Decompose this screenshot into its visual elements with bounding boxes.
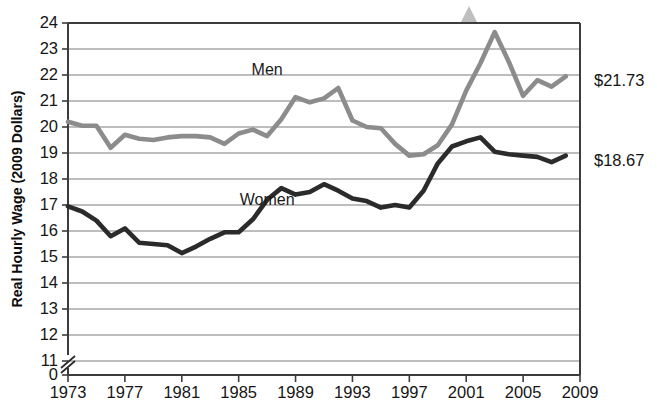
x-tick-label: 2009 <box>562 383 599 401</box>
y-tick-group: 24232221201918171615141312110 <box>40 13 68 383</box>
y-tick-label: 19 <box>40 143 58 161</box>
x-tick-label: 1977 <box>107 383 144 401</box>
y-tick-label: 22 <box>40 65 58 83</box>
y-tick-label: 18 <box>40 169 58 187</box>
series-group <box>68 32 566 253</box>
y-tick-label: 21 <box>40 91 58 109</box>
y-tick-label: 13 <box>40 299 58 317</box>
y-tick-label: 12 <box>40 325 58 343</box>
plot-frame <box>61 23 580 375</box>
y-axis-title: Real Hourly Wage (2009 Dollars) <box>9 90 25 307</box>
y-tick-label: 20 <box>40 117 58 135</box>
x-tick-label: 1989 <box>277 383 314 401</box>
x-tick-label: 1985 <box>220 383 257 401</box>
x-tick-label: 1993 <box>334 383 371 401</box>
series-label-women: Women <box>240 191 295 208</box>
y-tick-label: 24 <box>40 13 58 31</box>
line-chart: 24232221201918171615141312110 1973197719… <box>0 0 657 414</box>
series-line-men <box>68 32 566 156</box>
x-tick-label: 1973 <box>50 383 87 401</box>
x-tick-group: 1973197719811985198919931997200120052009 <box>50 375 599 401</box>
end-value-label-men: $21.73 <box>594 71 644 89</box>
top-edge-artifact <box>461 6 477 22</box>
series-line-women <box>68 137 566 253</box>
y-tick-label: 0 <box>49 365 58 383</box>
series-label-men: Men <box>252 61 283 78</box>
y-tick-label: 17 <box>40 195 58 213</box>
x-tick-label: 2005 <box>505 383 542 401</box>
x-tick-label: 1981 <box>163 383 200 401</box>
x-tick-label: 1997 <box>391 383 428 401</box>
y-tick-label: 14 <box>40 273 58 291</box>
x-tick-label: 2001 <box>448 383 485 401</box>
y-tick-label: 16 <box>40 221 58 239</box>
end-label-group: $21.73$18.67 <box>594 71 644 169</box>
end-value-label-women: $18.67 <box>594 151 644 169</box>
chart-container: 24232221201918171615141312110 1973197719… <box>0 0 657 414</box>
y-tick-label: 23 <box>40 39 58 57</box>
y-tick-label: 15 <box>40 247 58 265</box>
